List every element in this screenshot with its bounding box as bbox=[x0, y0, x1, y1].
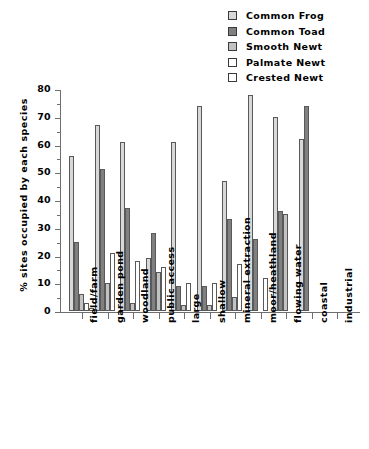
bar bbox=[197, 106, 202, 311]
legend-item[interactable]: Common Toad bbox=[228, 24, 366, 40]
y-axis-tick: 20 bbox=[55, 257, 60, 258]
x-axis-tick-label: mineral extraction bbox=[240, 217, 254, 323]
y-axis-tick: 40 bbox=[55, 201, 60, 202]
y-axis-minor-tick bbox=[57, 104, 60, 105]
y-axis-tick-label: 30 bbox=[37, 222, 51, 233]
y-axis-minor-tick bbox=[57, 270, 60, 271]
y-axis-minor-tick bbox=[57, 298, 60, 299]
y-axis-line bbox=[60, 90, 61, 313]
y-axis-tick: 10 bbox=[55, 284, 60, 285]
x-axis-tick bbox=[235, 313, 236, 319]
x-axis-tick bbox=[133, 313, 134, 319]
y-axis-tick-label: 0 bbox=[44, 305, 51, 316]
x-axis-tick-label: industrial bbox=[342, 268, 356, 323]
y-axis-tick: 60 bbox=[55, 146, 60, 147]
y-axis-tick: 80 bbox=[55, 90, 60, 91]
x-axis-tick-label: shallow bbox=[215, 280, 229, 323]
chart-legend: Common FrogCommon ToadSmooth NewtPalmate… bbox=[228, 8, 366, 86]
legend-swatch-icon bbox=[228, 58, 237, 67]
bar bbox=[283, 214, 288, 311]
y-axis-minor-tick bbox=[57, 243, 60, 244]
y-axis-tick-label: 10 bbox=[37, 277, 51, 288]
y-axis-tick-label: 70 bbox=[37, 111, 51, 122]
legend-swatch-icon bbox=[228, 42, 237, 51]
bar-group bbox=[197, 89, 223, 311]
y-axis-tick-label: 40 bbox=[37, 194, 51, 205]
y-axis-title: % sites occupied by each species bbox=[16, 75, 32, 315]
x-axis-tick-label: woodland bbox=[138, 268, 152, 323]
y-axis-tick-label: 80 bbox=[37, 83, 51, 94]
y-axis-minor-tick bbox=[57, 215, 60, 216]
legend-item[interactable]: Common Frog bbox=[228, 8, 366, 24]
y-axis-tick-label: 60 bbox=[37, 139, 51, 150]
y-axis-tick: 50 bbox=[55, 173, 60, 174]
x-axis-tick bbox=[286, 313, 287, 319]
legend-item[interactable]: Crested Newt bbox=[228, 70, 366, 86]
x-axis-tick bbox=[108, 313, 109, 319]
y-axis-tick-label: 20 bbox=[37, 250, 51, 261]
legend-item[interactable]: Smooth Newt bbox=[228, 39, 366, 55]
y-axis-minor-tick bbox=[57, 187, 60, 188]
y-axis-minor-tick bbox=[57, 132, 60, 133]
plot-area: 01020304050607080 field/farmgarden pondw… bbox=[60, 90, 360, 312]
x-axis-tick bbox=[261, 313, 262, 319]
x-axis-tick bbox=[210, 313, 211, 319]
x-axis-tick-label: coastal bbox=[317, 282, 331, 323]
legend-item-label: Smooth Newt bbox=[246, 42, 323, 52]
x-axis-tick-label: field/farm bbox=[87, 267, 101, 324]
y-axis-tick-label: 50 bbox=[37, 166, 51, 177]
bar-chart-figure: Common FrogCommon ToadSmooth NewtPalmate… bbox=[0, 0, 369, 449]
y-axis-minor-tick bbox=[57, 159, 60, 160]
x-axis-tick bbox=[337, 313, 338, 319]
x-axis-tick bbox=[82, 313, 83, 319]
x-axis-tick bbox=[312, 313, 313, 319]
legend-item-label: Common Frog bbox=[246, 11, 324, 21]
x-axis-tick-label: garden pond bbox=[113, 250, 127, 323]
legend-swatch-icon bbox=[228, 73, 237, 82]
x-axis-tick-label: moor/heathland bbox=[266, 232, 280, 323]
legend-item[interactable]: Palmate Newt bbox=[228, 55, 366, 71]
legend-item-label: Crested Newt bbox=[246, 73, 323, 83]
legend-swatch-icon bbox=[228, 27, 237, 36]
legend-swatch-icon bbox=[228, 11, 237, 20]
x-axis-tick bbox=[159, 313, 160, 319]
y-axis-tick: 30 bbox=[55, 229, 60, 230]
x-axis-tick-label: flowing water bbox=[291, 244, 305, 323]
x-axis-tick bbox=[184, 313, 185, 319]
x-axis-tick-label: large bbox=[189, 293, 203, 323]
y-axis-tick: 0 bbox=[55, 312, 60, 313]
legend-item-label: Common Toad bbox=[246, 27, 325, 37]
y-axis-tick: 70 bbox=[55, 118, 60, 119]
legend-item-label: Palmate Newt bbox=[246, 58, 326, 68]
x-axis-tick-label: public access bbox=[164, 247, 178, 323]
